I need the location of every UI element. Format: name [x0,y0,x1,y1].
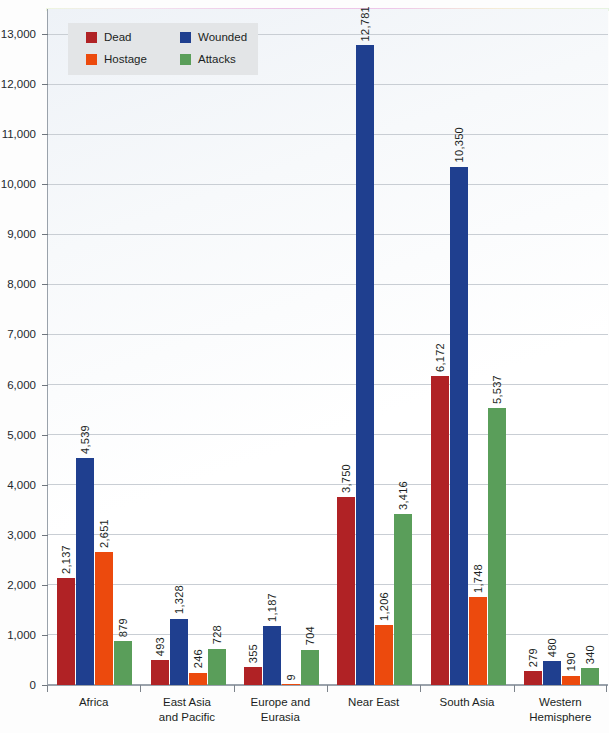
y-axis-tick-label: 8,000 [0,278,36,290]
category-label-line: Western [514,695,607,710]
bar-attacks-africa[interactable]: 879 [114,641,132,685]
bar-attacks-western-hemisphere[interactable]: 340 [581,668,599,685]
legend-swatch-hostage [86,54,97,65]
y-axis-tick-label: 11,000 [0,128,36,140]
y-tick-mark-13000 [42,34,48,35]
x-axis-category-label: Europe andEurasia [234,695,327,725]
x-axis-tick [47,685,48,692]
x-axis-category-label: Africa [47,695,140,710]
x-axis-tick [514,685,515,692]
bar-dead-western-hemisphere[interactable]: 279 [524,671,542,685]
x-axis-category-label: WesternHemisphere [514,695,607,725]
bar-value-label: 480 [546,638,558,657]
category-label-line: Europe and [234,695,327,710]
bar-value-label: 2,651 [98,519,110,548]
bar-hostage-south-asia[interactable]: 1,748 [469,597,487,685]
y-axis-tick-label: 6,000 [0,379,36,391]
legend-label: Hostage [104,53,147,65]
y-axis-labels: 01,0002,0003,0004,0005,0006,0007,0008,00… [0,9,44,685]
bar-attacks-east-asia-and-pacific[interactable]: 728 [208,649,226,685]
bar-group: 3551,1879704 [244,9,319,685]
bar-value-label: 2,137 [60,545,72,574]
bar-value-label: 879 [117,618,129,637]
bar-value-label: 355 [247,644,259,663]
bar-wounded-near-east[interactable]: 12,781 [356,45,374,685]
bar-wounded-western-hemisphere[interactable]: 480 [543,661,561,685]
bar-value-label: 190 [565,652,577,671]
x-axis-tick [140,685,141,692]
bar-hostage-east-asia-and-pacific[interactable]: 246 [189,673,207,685]
y-axis-tick-label: 13,000 [0,28,36,40]
legend-label: Dead [104,31,132,43]
y-axis-tick-label: 9,000 [0,228,36,240]
y-tick-mark-1000 [42,635,48,636]
legend-label: Attacks [198,53,236,65]
bar-hostage-western-hemisphere[interactable]: 190 [562,676,580,686]
y-axis-tick-label: 4,000 [0,479,36,491]
bar-group: 279480190340 [524,9,599,685]
x-axis-category-row: AfricaEast Asiaand PacificEurope andEura… [47,685,607,733]
x-axis-tick [420,685,421,692]
y-axis-tick-label: 3,000 [0,529,36,541]
legend-item-dead[interactable]: Dead [86,31,132,43]
y-tick-mark-12000 [42,84,48,85]
legend-swatch-dead [86,32,97,43]
x-axis-tick [234,685,235,692]
bar-dead-near-east[interactable]: 3,750 [337,497,355,685]
bar-wounded-europe-and-eurasia[interactable]: 1,187 [263,626,281,685]
bar-group: 6,17210,3501,7485,537 [431,9,506,685]
bar-value-label: 5,537 [491,375,503,404]
category-label-line: Near East [327,695,420,710]
x-axis-category-label: East Asiaand Pacific [140,695,233,725]
bar-attacks-europe-and-eurasia[interactable]: 704 [301,650,319,685]
y-axis-tick-label: 5,000 [0,429,36,441]
category-label-line: East Asia [140,695,233,710]
x-axis-tick [606,685,607,692]
bar-hostage-africa[interactable]: 2,651 [95,552,113,685]
y-tick-mark-5000 [42,435,48,436]
y-axis-tick-label: 7,000 [0,328,36,340]
y-axis-tick-label: 1,000 [0,629,36,641]
bar-dead-east-asia-and-pacific[interactable]: 493 [151,660,169,685]
bar-wounded-east-asia-and-pacific[interactable]: 1,328 [170,619,188,685]
bar-wounded-south-asia[interactable]: 10,350 [450,167,468,685]
bar-value-label: 9 [285,674,297,680]
bar-group: 2,1374,5392,651879 [57,9,132,685]
legend-item-hostage[interactable]: Hostage [86,53,147,65]
legend-item-wounded[interactable]: Wounded [180,31,247,43]
bar-value-label: 4,539 [79,425,91,454]
legend-swatch-wounded [180,32,191,43]
bar-value-label: 704 [304,626,316,645]
y-axis-tick-label: 0 [0,679,36,691]
bar-attacks-south-asia[interactable]: 5,537 [488,408,506,685]
bar-value-label: 3,416 [397,481,409,510]
bar-value-label: 1,748 [472,564,484,593]
bar-value-label: 728 [211,625,223,644]
y-tick-mark-10000 [42,184,48,185]
y-tick-mark-4000 [42,485,48,486]
bar-group: 3,75012,7811,2063,416 [337,9,412,685]
bar-dead-europe-and-eurasia[interactable]: 355 [244,667,262,685]
bar-group: 4931,328246728 [151,9,226,685]
bar-value-label: 1,328 [173,585,185,614]
legend-swatch-attacks [180,54,191,65]
bar-hostage-near-east[interactable]: 1,206 [375,625,393,685]
bar-value-label: 493 [154,637,166,656]
bar-dead-south-asia[interactable]: 6,172 [431,376,449,685]
bar-value-label: 10,350 [453,127,465,162]
x-axis-category-label: Near East [327,695,420,710]
y-tick-mark-6000 [42,385,48,386]
bar-wounded-africa[interactable]: 4,539 [76,458,94,685]
category-label-line: South Asia [420,695,513,710]
category-label-line: Africa [47,695,140,710]
y-tick-mark-8000 [42,284,48,285]
x-axis-category-label: South Asia [420,695,513,710]
bar-value-label: 1,187 [266,593,278,622]
grouped-bar-chart: 01,0002,0003,0004,0005,0006,0007,0008,00… [0,0,609,733]
bar-dead-africa[interactable]: 2,137 [57,578,75,685]
bar-value-label: 1,206 [378,592,390,621]
y-tick-mark-7000 [42,334,48,335]
bar-attacks-near-east[interactable]: 3,416 [394,514,412,685]
legend-item-attacks[interactable]: Attacks [180,53,236,65]
legend-label: Wounded [198,31,247,43]
